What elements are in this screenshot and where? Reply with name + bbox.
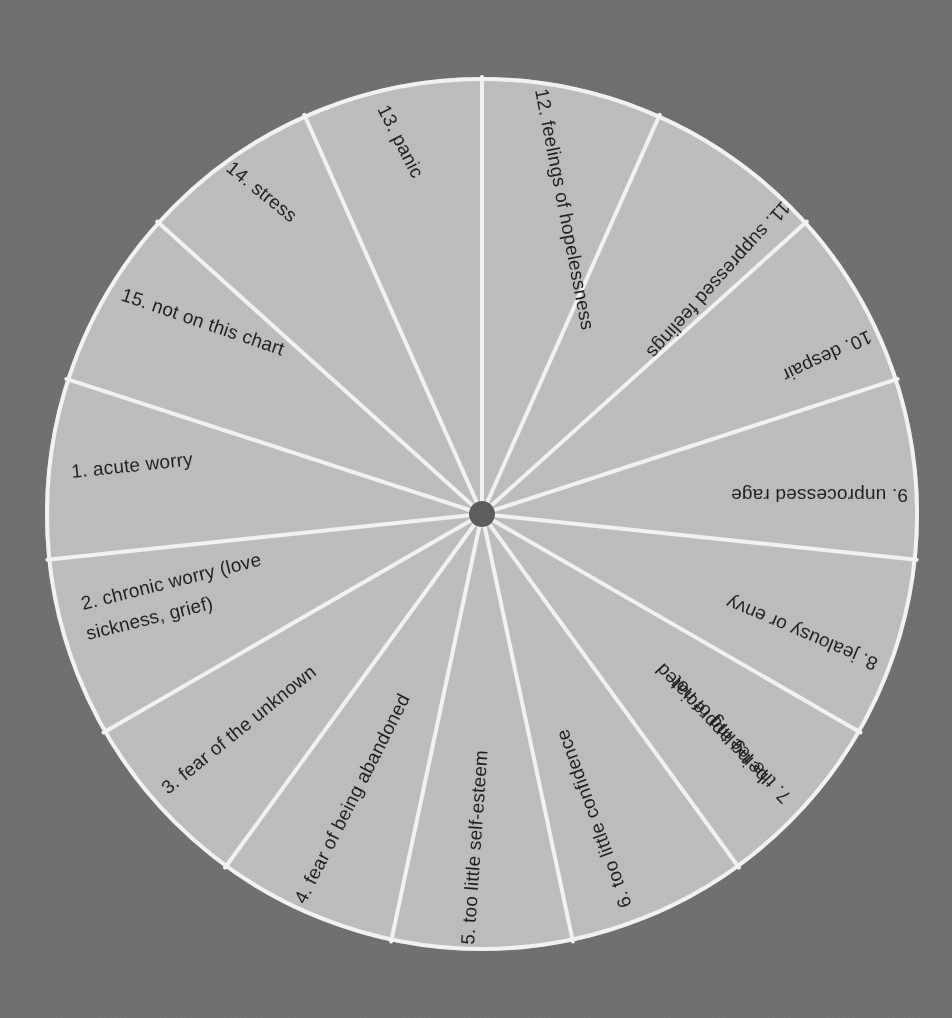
emotion-wheel-chart: 1. acute worry 2. chronic worry (love si…: [0, 0, 952, 1018]
sector-9-label: 9. unprocessed rage: [731, 485, 908, 506]
wheel-diagram-page: 1. acute worry 2. chronic worry (love si…: [0, 0, 952, 1018]
wheel-hub: [469, 501, 495, 527]
sector-9[interactable]: 9. unprocessed rage: [731, 485, 908, 506]
